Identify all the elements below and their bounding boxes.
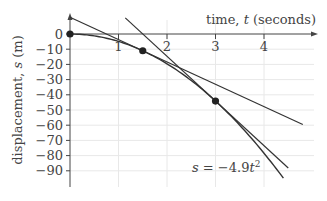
- y-tick-label: 0: [55, 27, 63, 42]
- y-tick-label: −80: [36, 148, 63, 163]
- y-tick-label: −40: [36, 87, 63, 102]
- y-axis-label: displacement, s (m): [10, 35, 25, 165]
- y-tick-label: −90: [36, 163, 63, 178]
- x-tick-label: 3: [211, 39, 219, 54]
- data-points: [66, 30, 219, 104]
- y-tick-label: −60: [36, 118, 63, 133]
- tangent-line: [70, 17, 303, 124]
- data-point: [139, 47, 146, 54]
- chart-svg: 12340−10−20−30−40−50−60−70−80−90 time, t…: [0, 0, 327, 201]
- y-tick-label: −50: [36, 103, 63, 118]
- y-tick-label: −70: [36, 133, 63, 148]
- y-tick-label: −30: [36, 72, 63, 87]
- x-tick-label: 2: [163, 39, 171, 54]
- parabola-curve: [70, 34, 283, 178]
- x-axis-arrow-icon: [311, 32, 318, 37]
- chart: 12340−10−20−30−40−50−60−70−80−90 time, t…: [0, 0, 327, 201]
- y-tick-label: −10: [36, 42, 63, 57]
- x-axis-label: time, t (seconds): [206, 12, 316, 27]
- equation-annotation: s = −4.9t2: [192, 159, 260, 175]
- y-axis-arrow-icon: [68, 13, 73, 20]
- data-point: [66, 30, 73, 37]
- x-tick-label: 4: [260, 39, 268, 54]
- y-tick-label: −20: [36, 57, 63, 72]
- data-point: [212, 97, 219, 104]
